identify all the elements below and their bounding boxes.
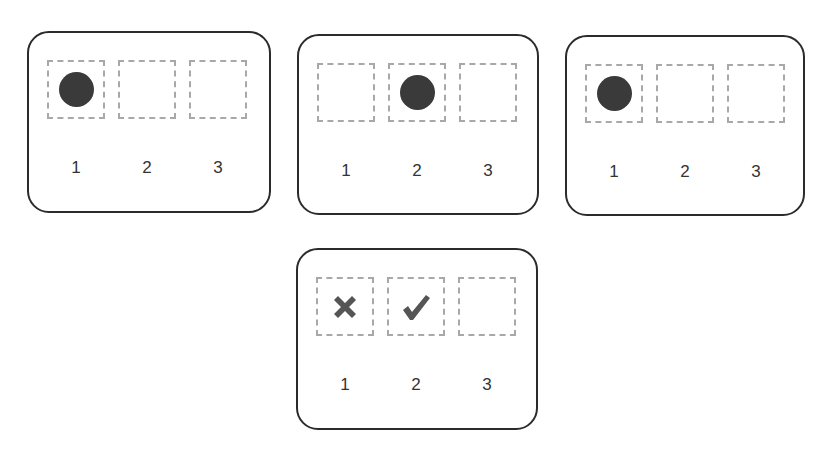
panel-4: 1 2 3 — [296, 248, 538, 430]
check-icon — [399, 290, 433, 324]
slot-label: 3 — [189, 158, 247, 178]
dot-marker — [400, 75, 435, 110]
slot-2 — [656, 64, 714, 123]
slot-label: 1 — [585, 162, 643, 182]
panel-3: 1 2 3 — [565, 35, 805, 216]
slot-label: 1 — [316, 375, 374, 395]
panel-1: 1 2 3 — [27, 31, 271, 213]
slot-label: 3 — [459, 161, 517, 181]
slot-2 — [388, 63, 446, 122]
slot-label: 1 — [47, 158, 105, 178]
slot-2 — [387, 277, 445, 336]
slot-1 — [316, 277, 374, 336]
slot-3 — [459, 63, 517, 122]
cross-icon — [328, 290, 362, 324]
dot-marker — [597, 76, 632, 111]
slot-label: 2 — [388, 161, 446, 181]
slot-3 — [458, 277, 516, 336]
slot-1 — [47, 60, 105, 119]
slot-3 — [727, 64, 785, 123]
slot-label: 1 — [317, 161, 375, 181]
slot-1 — [585, 64, 643, 123]
slot-label: 2 — [387, 375, 445, 395]
slot-2 — [118, 60, 176, 119]
slot-label: 3 — [458, 375, 516, 395]
slot-label: 2 — [118, 158, 176, 178]
slot-3 — [189, 60, 247, 119]
slot-label: 2 — [656, 162, 714, 182]
dot-marker — [59, 72, 94, 107]
slot-1 — [317, 63, 375, 122]
slot-label: 3 — [727, 162, 785, 182]
panel-2: 1 2 3 — [297, 34, 539, 215]
